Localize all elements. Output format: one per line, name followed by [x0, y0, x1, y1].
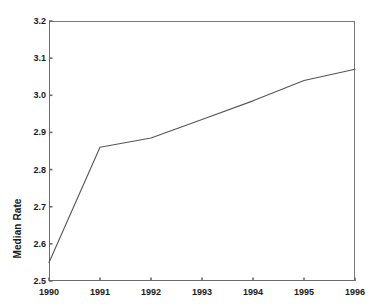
x-tick-label: 1994 [229, 287, 277, 297]
x-axis-tick-labels: 1990199119921993199419951996 [0, 0, 379, 308]
line-chart: Median Rate 2.52.62.72.82.93.03.13.2 199… [0, 0, 379, 308]
x-tick-label: 1993 [178, 287, 226, 297]
x-tick-label: 1992 [127, 287, 175, 297]
x-tick-label: 1990 [25, 287, 73, 297]
x-tick-label: 1991 [76, 287, 124, 297]
x-tick-label: 1995 [280, 287, 328, 297]
x-tick-label: 1996 [331, 287, 379, 297]
